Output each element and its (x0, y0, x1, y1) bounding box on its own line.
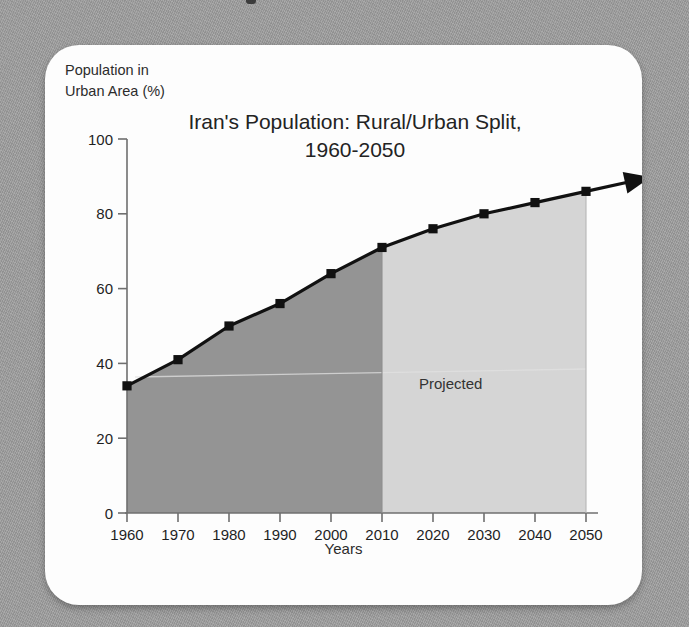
data-point-marker (530, 198, 539, 207)
cropped-glyph-fragment (246, 0, 256, 4)
y-tick-label: 60 (96, 280, 113, 297)
data-point-marker (275, 299, 284, 308)
data-point-marker (581, 187, 590, 196)
y-tick-label: 20 (96, 430, 113, 447)
plot-canvas: 0204060801001960197019801990200020102020… (45, 45, 642, 605)
data-point-marker (326, 269, 335, 278)
data-point-marker (377, 243, 386, 252)
y-tick-label: 80 (96, 205, 113, 222)
y-tick-label: 0 (105, 505, 113, 522)
area-fill-historical (127, 247, 382, 513)
arrow-head-icon (623, 172, 642, 193)
x-axis-title: Years (45, 540, 642, 557)
data-point-marker (122, 381, 131, 390)
data-point-marker (173, 355, 182, 364)
chart-card: Population inUrban Area (%) Iran's Popul… (45, 45, 642, 605)
arrow-shaft (586, 181, 631, 191)
data-point-marker (428, 224, 437, 233)
y-tick-label: 100 (88, 131, 113, 148)
area-fill-projected (382, 191, 586, 513)
chart-figure: Population inUrban Area (%) Iran's Popul… (45, 45, 642, 605)
data-point-marker (224, 321, 233, 330)
y-tick-label: 40 (96, 355, 113, 372)
data-point-marker (479, 209, 488, 218)
projected-annotation: Projected (419, 375, 482, 392)
